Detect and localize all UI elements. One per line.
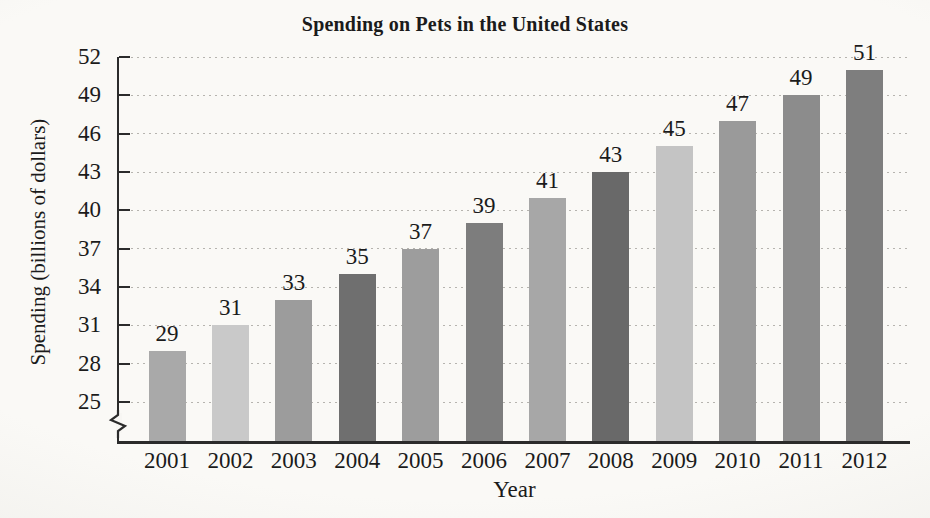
y-axis-title: Spending (billions of dollars) xyxy=(25,107,51,377)
y-tick-label: 40 xyxy=(53,196,101,224)
bar xyxy=(529,198,566,441)
bar-value-label: 47 xyxy=(708,91,768,117)
y-tick xyxy=(119,171,130,173)
bar-value-label: 49 xyxy=(771,65,831,91)
y-tick xyxy=(119,133,130,135)
y-tick-label: 31 xyxy=(53,311,101,339)
bar xyxy=(339,274,376,441)
y-tick xyxy=(119,401,130,403)
bar xyxy=(149,351,186,441)
gridline xyxy=(119,57,910,59)
y-tick xyxy=(119,209,130,211)
bar-value-label: 43 xyxy=(581,142,641,168)
bar-value-label: 51 xyxy=(834,40,894,66)
bar xyxy=(275,300,312,441)
bar-value-label: 39 xyxy=(454,193,514,219)
bar-value-label: 29 xyxy=(137,321,197,347)
chart-page: Spending on Pets in the United States Sp… xyxy=(0,0,930,518)
bar xyxy=(656,146,693,441)
bar xyxy=(466,223,503,441)
y-tick-label: 34 xyxy=(53,273,101,301)
bar-value-label: 35 xyxy=(327,244,387,270)
y-tick-label: 49 xyxy=(53,81,101,109)
bar-value-label: 45 xyxy=(644,116,704,142)
y-tick xyxy=(119,363,130,365)
bar-value-label: 33 xyxy=(264,270,324,296)
bar xyxy=(212,325,249,441)
y-tick-label: 25 xyxy=(53,388,101,416)
y-tick xyxy=(119,94,130,96)
y-tick-label: 46 xyxy=(53,120,101,148)
chart-title: Spending on Pets in the United States xyxy=(0,13,930,36)
y-tick-label: 52 xyxy=(53,43,101,71)
y-tick-label: 28 xyxy=(53,350,101,378)
y-tick xyxy=(119,286,130,288)
bar xyxy=(719,121,756,441)
bar xyxy=(783,95,820,441)
bar-value-label: 31 xyxy=(200,295,260,321)
bar-value-label: 41 xyxy=(517,168,577,194)
bar xyxy=(592,172,629,441)
plot-area: Year 25283134374043464952292001312002332… xyxy=(117,57,910,444)
x-tick-label: 2012 xyxy=(822,448,906,474)
bar xyxy=(402,249,439,441)
x-axis-title: Year xyxy=(119,477,910,503)
y-tick-label: 43 xyxy=(53,158,101,186)
y-tick xyxy=(119,56,130,58)
axis-break-icon xyxy=(107,410,131,438)
bar-value-label: 37 xyxy=(391,219,451,245)
bar xyxy=(846,70,883,441)
y-tick xyxy=(119,248,130,250)
y-tick xyxy=(119,324,130,326)
y-tick-label: 37 xyxy=(53,235,101,263)
